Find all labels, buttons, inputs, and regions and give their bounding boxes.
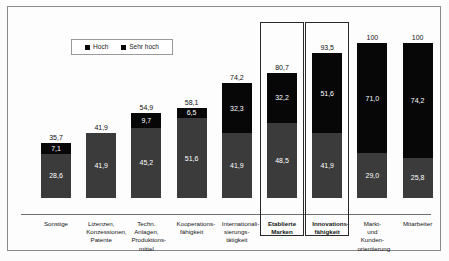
square-marker-icon [85,45,90,50]
legend-entry-hoch: Hoch [85,44,108,51]
bar-segment-sehr-hoch[interactable]: 41,9 [86,133,116,198]
bar-total-label: 35,7 [41,134,71,141]
bar-segment-value-hoch: 32,2 [275,94,289,101]
bar-stack: 54,99,745,2 [131,113,161,198]
category-label: Etablierte Marken [267,220,297,236]
bar-column[interactable]: 74,232,341,9Internationali- sierungs- tä… [222,6,252,251]
bar-segment-value-sehr-hoch: 51,6 [185,155,199,162]
category-label: Innovations- fähigkeit [312,220,342,236]
bar-total-label: 54,9 [131,104,161,111]
legend-entry-sehr-hoch: Sehr hoch [121,44,159,51]
bar-segment-sehr-hoch[interactable]: 48,5 [267,123,297,198]
bar-stack: 93,551,641,9 [312,53,342,198]
bar-segment-sehr-hoch[interactable]: 28,6 [41,154,71,198]
bar-segment-hoch[interactable]: 32,3 [222,83,252,133]
bar-segment-value-hoch: 51,6 [320,90,334,97]
bar-stack: 10071,029,0 [357,43,387,198]
bar-segment-hoch[interactable]: 6,5 [177,108,207,118]
bar-column[interactable]: 10071,029,0Markt- und Kunden- orientieru… [357,6,387,251]
category-label: Sonstige [41,220,71,228]
bar-total-label: 100 [357,34,387,41]
bar-segment-value-hoch: 32,3 [230,105,244,112]
bar-total-label: 93,5 [312,44,342,51]
bar-segment-value-hoch: 74,2 [411,97,425,104]
bar-segment-sehr-hoch[interactable]: 41,9 [312,133,342,198]
bar-segment-value-hoch: 7,1 [51,145,61,152]
bar-stack: 41,941,9 [86,133,116,198]
bar-segment-value-sehr-hoch: 41,9 [94,162,108,169]
chart-legend: Hoch Sehr hoch [71,39,173,55]
bar-column[interactable]: 10074,225,8Mitarbeiter [403,6,433,251]
legend-label-sehr-hoch: Sehr hoch [129,44,159,51]
bar-segment-value-sehr-hoch: 29,0 [366,172,380,179]
bar-total-label: 58,1 [177,99,207,106]
bar-segment-hoch[interactable]: 9,7 [131,113,161,128]
category-label: Lizenzen, Konzessionen, Patente [86,220,116,245]
bar-column[interactable]: 58,16,551,6Kooperations- fähigkeit [177,6,207,251]
bar-segment-hoch[interactable]: 71,0 [357,43,387,153]
bar-segment-value-sehr-hoch: 25,8 [411,174,425,181]
bar-segment-value-sehr-hoch: 41,9 [230,162,244,169]
bar-segment-sehr-hoch[interactable]: 45,2 [131,128,161,198]
bar-segment-sehr-hoch[interactable]: 25,8 [403,158,433,198]
bar-segment-value-sehr-hoch: 48,5 [275,157,289,164]
bar-total-label: 74,2 [222,74,252,81]
bar-segment-sehr-hoch[interactable]: 29,0 [357,153,387,198]
bar-segment-value-sehr-hoch: 28,6 [49,172,63,179]
bar-total-label: 80,7 [267,64,297,71]
category-label: Techn. Anlagen, Produktions- mittel [131,220,161,253]
bar-segment-hoch[interactable]: 51,6 [312,53,342,133]
category-label: Kooperations- fähigkeit [177,220,207,236]
bar-segment-hoch[interactable]: 32,2 [267,73,297,123]
bar-total-label: 41,9 [86,124,116,131]
bar-segment-value-hoch: 6,5 [187,109,197,116]
bar-column[interactable]: 80,732,248,5Etablierte Marken [267,6,297,251]
bar-segment-sehr-hoch[interactable]: 51,6 [177,118,207,198]
square-marker-icon [121,45,126,50]
bar-stack: 58,16,551,6 [177,108,207,198]
bar-stack: 80,732,248,5 [267,73,297,198]
bar-stack: 10074,225,8 [403,43,433,198]
category-label: Markt- und Kunden- orientierung [357,220,387,253]
bar-segment-hoch[interactable]: 74,2 [403,43,433,158]
bar-segment-hoch[interactable]: 7,1 [41,143,71,154]
bar-total-label: 100 [403,34,433,41]
category-label: Mitarbeiter [403,220,433,228]
legend-label-hoch: Hoch [93,44,108,51]
bar-segment-value-hoch: 9,7 [142,117,152,124]
bar-segment-value-hoch: 71,0 [366,95,380,102]
bar-segment-sehr-hoch[interactable]: 41,9 [222,133,252,198]
bar-column[interactable]: 93,551,641,9Innovations- fähigkeit [312,6,342,251]
bar-column[interactable]: 35,77,128,6Sonstige [41,6,71,251]
bar-stack: 35,77,128,6 [41,143,71,198]
chart-container: 35,77,128,6Sonstige41,941,9Lizenzen, Kon… [0,0,449,261]
bar-segment-value-sehr-hoch: 41,9 [320,162,334,169]
category-label: Internationali- sierungs- tätigkeit [222,220,252,245]
bar-stack: 74,232,341,9 [222,83,252,198]
bar-segment-value-sehr-hoch: 45,2 [140,159,154,166]
